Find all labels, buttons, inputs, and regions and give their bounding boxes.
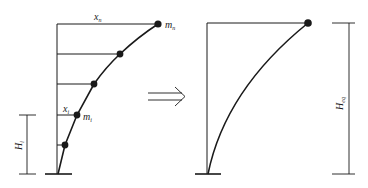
deflected-shape-curve <box>58 24 158 174</box>
mass-dot-n <box>154 20 161 27</box>
double-arrow-icon <box>148 87 185 106</box>
equivalent-mass-dot <box>304 19 312 27</box>
equivalent-deflected-curve <box>208 23 308 174</box>
mass-dot-1 <box>62 142 69 149</box>
multi-mass-model <box>19 24 158 174</box>
mass-dot-3 <box>91 81 98 88</box>
label-x-n: xn <box>93 11 101 23</box>
label-H-i: Hi <box>13 141 25 151</box>
equivalent-model <box>195 23 355 174</box>
label-x-i: xi <box>62 103 69 115</box>
label-m-n: mn <box>165 19 175 31</box>
mass-dot-4 <box>117 51 124 58</box>
label-H-eq: Heq <box>334 97 346 111</box>
label-m-i: mi <box>83 111 92 123</box>
equivalent-cantilever-diagram: xn mn xi mi Hi Heq <box>0 0 368 188</box>
mass-dot-i <box>74 112 81 119</box>
